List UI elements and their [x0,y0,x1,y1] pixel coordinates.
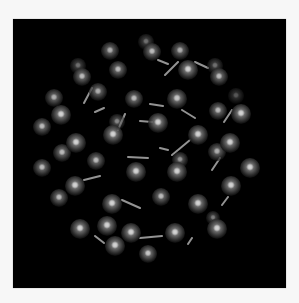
bond [158,60,168,64]
carbon-atom [73,68,91,86]
carbon-atom [33,159,51,177]
carbon-atom [101,42,119,60]
carbon-atom [126,162,146,182]
bond [95,236,104,243]
carbon-atom [65,176,85,196]
carbon-atom [45,89,63,107]
carbon-atom [209,102,227,120]
bond [188,238,192,244]
carbon-atom [105,236,125,256]
carbon-atom [87,152,105,170]
molecule-viewport: C60 fullerene ball-and-stick model [13,19,286,288]
carbon-atom [165,223,185,243]
bond [140,236,162,238]
carbon-atom [178,60,198,80]
bond [182,110,195,118]
carbon-atom [70,219,90,239]
carbon-atom [188,194,208,214]
bond [84,176,100,180]
carbon-atom [231,104,251,124]
bond [150,104,163,106]
carbon-atom [221,176,241,196]
carbon-atom [33,118,51,136]
bond [122,200,140,208]
carbon-atom [210,68,228,86]
carbon-atom [167,89,187,109]
carbon-atom [66,133,86,153]
carbon-atom [51,105,71,125]
carbon-atom [103,125,123,145]
bond [222,197,228,205]
bond [95,108,104,112]
carbon-atom [152,188,170,206]
carbon-atom [167,162,187,182]
fullerene-model [13,19,286,288]
carbon-atom [148,113,168,133]
carbon-atom [89,83,107,101]
carbon-atom [188,125,208,145]
carbon-atom [125,90,143,108]
carbon-atom [50,189,68,207]
carbon-atom [97,216,117,236]
carbon-atom [207,219,227,239]
atom-layer [33,34,260,263]
bond [128,157,148,158]
bond [160,148,168,150]
carbon-atom [240,158,260,178]
carbon-atom [228,88,244,104]
carbon-atom [121,223,141,243]
carbon-atom [143,43,161,61]
carbon-atom [109,61,127,79]
carbon-atom [139,245,157,263]
carbon-atom [171,42,189,60]
carbon-atom [220,133,240,153]
carbon-atom [102,194,122,214]
